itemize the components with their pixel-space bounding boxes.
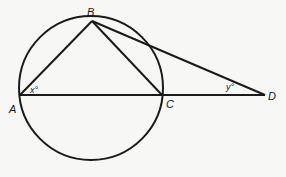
label-D: D [268, 90, 276, 102]
angle-x-label: x° [29, 85, 39, 95]
line-BD [92, 21, 265, 95]
label-B: B [87, 6, 94, 18]
circle [19, 16, 163, 160]
label-A: A [8, 103, 16, 115]
line-AB [20, 21, 92, 95]
geometry-diagram: B A C D x° y° [0, 0, 286, 177]
line-BC [92, 21, 162, 95]
label-C: C [166, 98, 174, 110]
angle-y-label: y° [225, 82, 235, 92]
